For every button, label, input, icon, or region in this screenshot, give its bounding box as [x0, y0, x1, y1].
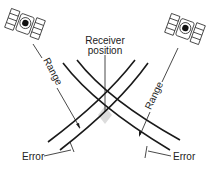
receiver-label-line2: position: [88, 45, 122, 56]
right-error-label: Error: [173, 151, 196, 162]
left-range-line-upper: [33, 44, 42, 58]
right-range-arrowhead: [139, 131, 142, 137]
ranging-diagram: Receiver position Range Range Error Erro…: [0, 0, 210, 171]
satellite-icon: [5, 8, 46, 39]
left-range-label: Range: [41, 56, 65, 88]
left-error-indicator: [44, 142, 74, 156]
left-error-label: Error: [22, 151, 45, 162]
right-range-label: Range: [143, 79, 166, 111]
left-range-arrowhead: [76, 123, 80, 129]
left-range-line-lower: [57, 88, 80, 128]
right-satellite-range-arcs: [48, 60, 148, 150]
left-satellite-range-arcs: [63, 60, 180, 150]
satellite-icon: [165, 13, 206, 44]
right-arc-outer: [48, 60, 135, 142]
right-range-line-upper: [162, 48, 178, 82]
right-range-line-lower: [140, 112, 150, 135]
left-arc-outer: [77, 60, 180, 140]
